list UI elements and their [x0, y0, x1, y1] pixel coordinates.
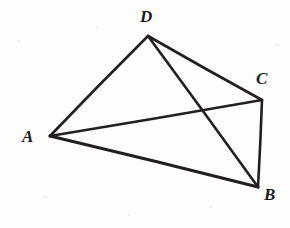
edge-A-C	[50, 100, 262, 136]
edge-D-C	[148, 36, 262, 100]
vertex-label-d: D	[140, 8, 152, 25]
geometry-figure: A B C D	[0, 0, 290, 228]
edge-C-B	[258, 100, 262, 187]
figure-canvas	[0, 0, 290, 228]
paper-speck	[44, 196, 46, 198]
vertex-label-b: B	[264, 186, 275, 203]
paper-speck	[128, 214, 130, 216]
paper-speck	[96, 26, 98, 28]
vertex-label-c: C	[256, 70, 267, 87]
vertex-label-a: A	[22, 128, 33, 145]
paper-speck	[18, 40, 20, 42]
paper-speck	[276, 44, 278, 46]
paper-speck	[210, 206, 212, 208]
